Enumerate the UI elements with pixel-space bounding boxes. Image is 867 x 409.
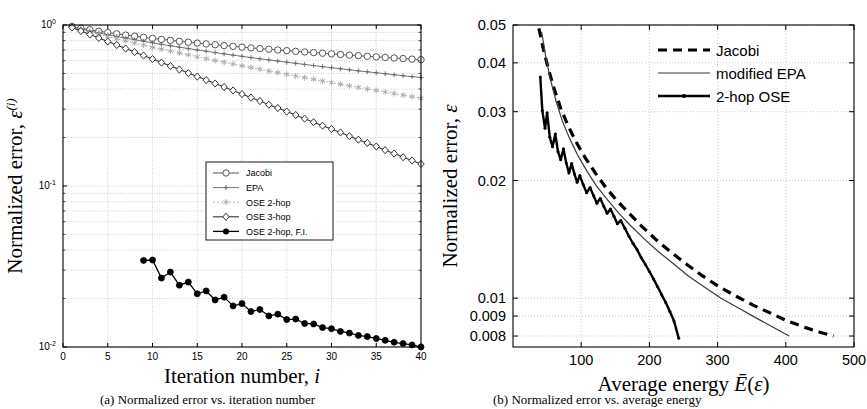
marker-2 (570, 162, 573, 165)
panel-a-chart: 051015202530354010010-110-2Iteration num… (0, 0, 434, 409)
marker-0 (293, 48, 299, 54)
marker-0 (158, 36, 164, 42)
marker-2 (551, 145, 554, 148)
marker-0 (355, 52, 361, 58)
legend-label-4: OSE 2-hop, F.I. (246, 227, 308, 237)
panel-a-plot: 051015202530354010010-110-2Iteration num… (3, 18, 427, 388)
marker-2 (567, 172, 570, 175)
x-tick-label: 300 (705, 352, 729, 368)
marker-2 (599, 197, 602, 200)
x-tick-label: 0 (60, 351, 66, 362)
marker-2 (619, 219, 622, 222)
marker-4 (391, 339, 397, 345)
legend-label-1: modified EPA (716, 65, 806, 82)
y-tick-label: 0.008 (470, 328, 506, 344)
marker-4 (266, 313, 272, 319)
marker-0 (212, 42, 218, 48)
x-tick-label: 20 (236, 351, 248, 362)
marker-4 (248, 309, 254, 315)
panel-b-svg: 1002003004005000.050.040.030.020.010.009… (433, 0, 867, 409)
x-tick-label: 25 (281, 351, 293, 362)
marker-0 (301, 49, 307, 55)
panel-b-caption: (b) Normalized error vs. average energy (493, 392, 702, 407)
marker-2 (562, 147, 565, 150)
marker-0 (337, 51, 343, 57)
y-tick-label: 100 (41, 18, 56, 30)
marker-2 (565, 161, 568, 164)
x-axis-title: Iteration number, i (164, 364, 320, 388)
x-tick-label: 100 (569, 352, 593, 368)
marker-2 (640, 256, 643, 259)
panel-b-plot: 1002003004005000.050.040.030.020.010.009… (438, 17, 866, 396)
legend-label-3: OSE 3-hop (246, 212, 291, 222)
marker-0 (203, 41, 209, 47)
marker-2 (677, 337, 680, 340)
x-tick-label: 30 (326, 351, 338, 362)
marker-4 (364, 334, 370, 340)
marker-4 (141, 257, 147, 263)
y-tick-label: 0.05 (478, 17, 506, 33)
marker-0 (221, 42, 227, 48)
marker-2 (627, 235, 630, 238)
y-axis-title: Normalized error, ε (438, 104, 462, 268)
marker-0 (194, 40, 200, 46)
marker-4 (158, 275, 164, 281)
y-tick-label: 0.02 (478, 173, 506, 189)
y-tick-label: 10-1 (39, 179, 56, 191)
panel-a-caption: (a) Normalized error vs. iteration numbe… (100, 392, 316, 407)
marker-2 (589, 186, 592, 189)
marker-2 (644, 263, 647, 266)
marker-4 (320, 325, 326, 331)
legend-marker-4 (223, 228, 229, 234)
marker-0 (284, 47, 290, 53)
marker-2 (606, 212, 609, 215)
marker-0 (328, 51, 334, 57)
marker-4 (167, 269, 173, 275)
marker-4 (382, 337, 388, 343)
marker-2 (559, 158, 562, 161)
marker-2 (652, 277, 655, 280)
marker-0 (382, 54, 388, 60)
marker-0 (364, 53, 370, 59)
marker-4 (373, 335, 379, 341)
marker-4 (212, 297, 218, 303)
marker-2 (578, 174, 581, 177)
marker-4 (346, 330, 352, 336)
marker-4 (176, 282, 182, 288)
marker-0 (391, 55, 397, 61)
marker-2 (576, 181, 579, 184)
marker-2 (612, 215, 615, 218)
marker-2 (602, 205, 605, 208)
x-tick-label: 500 (842, 352, 866, 368)
svg-text:Normalized error, ε: Normalized error, ε (438, 104, 462, 268)
marker-0 (230, 43, 236, 49)
marker-4 (311, 321, 317, 327)
marker-4 (239, 301, 245, 307)
x-tick-label: 15 (192, 351, 204, 362)
figure-root: 051015202530354010010-110-2Iteration num… (0, 0, 867, 409)
marker-4 (302, 320, 308, 326)
marker-0 (266, 46, 272, 52)
legend-label-2: 2-hop OSE (716, 88, 790, 105)
y-tick-label: 0.03 (478, 104, 506, 120)
marker-2 (632, 242, 635, 245)
marker-2 (664, 301, 667, 304)
marker-0 (185, 39, 191, 45)
marker-2 (592, 194, 595, 197)
marker-0 (373, 54, 379, 60)
marker-2 (546, 111, 549, 114)
legend-marker-2 (682, 94, 686, 98)
marker-0 (310, 49, 316, 55)
marker-0 (400, 55, 406, 61)
marker-2 (585, 191, 588, 194)
marker-4 (337, 328, 343, 334)
marker-4 (150, 257, 156, 263)
marker-4 (275, 311, 281, 317)
panel-b-chart: 1002003004005000.050.040.030.020.010.009… (433, 0, 867, 409)
x-tick-label: 10 (147, 351, 159, 362)
marker-4 (230, 303, 236, 309)
legend-label-0: Jacobi (716, 42, 759, 59)
marker-2 (656, 285, 659, 288)
y-tick-label: 0.009 (470, 308, 506, 324)
marker-2 (539, 76, 542, 79)
